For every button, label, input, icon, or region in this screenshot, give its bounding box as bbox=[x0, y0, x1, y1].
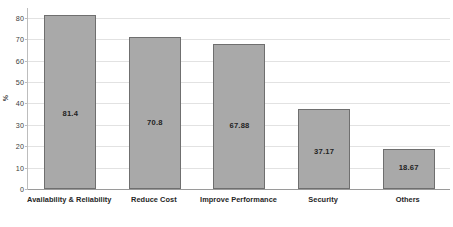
y-axis-tick-label: 10 bbox=[6, 163, 24, 172]
y-axis-tick-label: 40 bbox=[6, 99, 24, 108]
y-axis-tick-label: 70 bbox=[6, 35, 24, 44]
gridline bbox=[28, 189, 450, 190]
x-axis-category-label: Security bbox=[308, 195, 338, 204]
bar[interactable]: 67.88 bbox=[213, 44, 265, 189]
bar[interactable]: 18.67 bbox=[383, 149, 435, 189]
figure-caption bbox=[0, 216, 453, 227]
bar-slot: 81.4 bbox=[28, 8, 113, 189]
y-axis-tick-label: 30 bbox=[6, 120, 24, 129]
bar-value-label: 81.4 bbox=[45, 109, 95, 118]
bar-series: 81.470.867.8837.1718.67 bbox=[28, 8, 450, 189]
y-axis-tick-label: 20 bbox=[6, 142, 24, 151]
bar-value-label: 70.8 bbox=[130, 118, 180, 127]
x-axis-category-label: Reduce Cost bbox=[131, 195, 177, 204]
bar-chart-figure: % 01020304050607080 81.470.867.8837.1718… bbox=[0, 0, 453, 227]
bar[interactable]: 70.8 bbox=[129, 37, 181, 189]
bar-slot: 37.17 bbox=[282, 8, 367, 189]
x-axis-category-label: Improve Performance bbox=[200, 195, 277, 204]
bar-value-label: 37.17 bbox=[299, 147, 349, 156]
x-axis-category-labels: Availability & ReliabilityReduce CostImp… bbox=[27, 195, 450, 209]
bar-value-label: 18.67 bbox=[384, 163, 434, 172]
y-axis-tick-mark bbox=[25, 189, 28, 190]
y-axis-tick-label: 60 bbox=[6, 56, 24, 65]
x-axis-category-label: Availability & Reliability bbox=[27, 195, 111, 204]
bar-value-label: 67.88 bbox=[214, 121, 264, 130]
bar-slot: 18.67 bbox=[366, 8, 451, 189]
y-axis-tick-labels: 01020304050607080 bbox=[6, 0, 24, 190]
bar[interactable]: 81.4 bbox=[44, 15, 96, 189]
y-axis-tick-label: 80 bbox=[6, 13, 24, 22]
y-axis-tick-label: 50 bbox=[6, 77, 24, 86]
bar-slot: 67.88 bbox=[197, 8, 282, 189]
x-axis-category-label: Others bbox=[396, 195, 420, 204]
plot-area: 81.470.867.8837.1718.67 bbox=[27, 8, 450, 190]
y-axis-tick-label: 0 bbox=[6, 185, 24, 194]
bar-slot: 70.8 bbox=[113, 8, 198, 189]
bar[interactable]: 37.17 bbox=[298, 109, 350, 189]
